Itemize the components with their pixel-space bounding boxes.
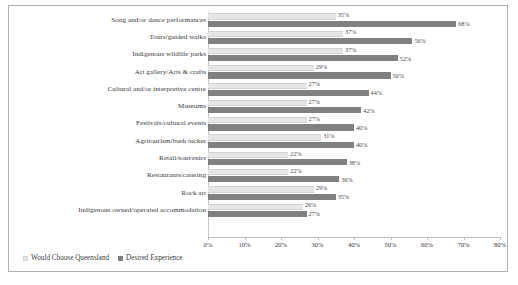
- bar-value-label: 52%: [400, 56, 411, 62]
- bar-value-label: 37%: [345, 29, 356, 35]
- row-bars: 26%27%: [208, 202, 507, 219]
- bar-value-label: 36%: [341, 177, 352, 183]
- row-bars: 37%52%: [208, 47, 507, 64]
- row-bars: 29%35%: [208, 185, 507, 202]
- axis-tick: [427, 237, 428, 240]
- plot-area: Song and/or dance performances35%68%Tour…: [9, 6, 507, 271]
- category-label: Art gallery/Arts & crafts: [135, 69, 206, 76]
- legend-label: Would Choose Queensland: [31, 255, 109, 262]
- legend-item[interactable]: Would Choose Queensland: [23, 255, 109, 262]
- bar-value-label: 44%: [371, 90, 382, 96]
- bar-dark: [208, 38, 412, 44]
- category-label: Indigenous wildlife parks: [132, 52, 206, 59]
- bar-dark: [208, 107, 361, 113]
- bar-light: [208, 13, 336, 19]
- axis-tick: [281, 237, 282, 240]
- bar-row: Restaurants/catering22%36%: [9, 168, 507, 185]
- bar-value-label: 29%: [316, 64, 327, 70]
- bar-row: Rock art29%35%: [9, 185, 507, 202]
- bar-light: [208, 152, 288, 158]
- bar-row: Song and/or dance performances35%68%: [9, 12, 507, 29]
- bar-dark: [208, 21, 456, 27]
- bar-row: Festivals/cultural events27%40%: [9, 116, 507, 133]
- bar-value-label: 38%: [349, 160, 360, 166]
- axis-tick-label: 0%: [204, 242, 213, 249]
- row-bars: 37%56%: [208, 29, 507, 46]
- axis-tick: [245, 237, 246, 240]
- bar-row: Indigenous wildlife parks37%52%: [9, 47, 507, 64]
- bar-light: [208, 186, 314, 192]
- bar-dark: [208, 124, 354, 130]
- legend-swatch-icon: [118, 256, 123, 261]
- bar-light: [208, 134, 321, 140]
- category-label: Indigenous owned/operated accommodation: [78, 207, 206, 214]
- bar-row: Retail/souvenirs22%38%: [9, 150, 507, 167]
- bar-value-label: 35%: [338, 12, 349, 18]
- bar-light: [208, 117, 307, 123]
- bar-row: Tours/guided walks37%56%: [9, 29, 507, 46]
- row-bars: 22%36%: [208, 168, 507, 185]
- row-bars: 31%40%: [208, 133, 507, 150]
- bar-value-label: 40%: [356, 125, 367, 131]
- axis-tick-label: 40%: [348, 242, 360, 249]
- axis-tick-label: 80%: [494, 242, 506, 249]
- legend-label: Desired Experience: [126, 255, 182, 262]
- category-label: Museums: [178, 104, 206, 111]
- bar-row: Indigenous owned/operated accommodation2…: [9, 202, 507, 219]
- bar-dark: [208, 72, 391, 78]
- bar-value-label: 27%: [309, 81, 320, 87]
- bar-dark: [208, 176, 339, 182]
- row-bars: 27%42%: [208, 98, 507, 115]
- bar-row: Art gallery/Arts & crafts29%50%: [9, 64, 507, 81]
- axis-tick-label: 60%: [421, 242, 433, 249]
- axis-tick: [318, 237, 319, 240]
- row-bars: 27%40%: [208, 116, 507, 133]
- bar-dark: [208, 90, 369, 96]
- bar-light: [208, 169, 288, 175]
- bar-value-label: 40%: [356, 142, 367, 148]
- axis-tick-label: 70%: [457, 242, 469, 249]
- bar-dark: [208, 142, 354, 148]
- axis-tick-label: 30%: [311, 242, 323, 249]
- bar-value-label: 35%: [338, 194, 349, 200]
- bar-row: Museums27%42%: [9, 98, 507, 115]
- bar-value-label: 31%: [323, 133, 334, 139]
- bar-row: Cultural and/or interpretive centre27%44…: [9, 81, 507, 98]
- category-label: Song and/or dance performances: [111, 17, 206, 24]
- axis-tick: [391, 237, 392, 240]
- bar-dark: [208, 211, 307, 217]
- bar-rows: Song and/or dance performances35%68%Tour…: [9, 12, 507, 237]
- bar-light: [208, 204, 303, 210]
- bar-value-label: 27%: [309, 99, 320, 105]
- bar-light: [208, 100, 307, 106]
- row-bars: 29%50%: [208, 64, 507, 81]
- legend-item[interactable]: Desired Experience: [118, 255, 182, 262]
- category-label: Agritourism/bush tucker: [135, 138, 206, 145]
- bar-value-label: 27%: [309, 116, 320, 122]
- axis-tick-label: 10%: [238, 242, 250, 249]
- chart-container: Song and/or dance performances35%68%Tour…: [8, 5, 508, 272]
- axis-tick: [354, 237, 355, 240]
- row-bars: 35%68%: [208, 12, 507, 29]
- bar-value-label: 27%: [309, 211, 320, 217]
- bar-dark: [208, 55, 398, 61]
- bar-value-label: 68%: [458, 21, 469, 27]
- row-bars: 22%38%: [208, 150, 507, 167]
- category-label: Tours/guided walks: [149, 34, 206, 41]
- bar-light: [208, 31, 343, 37]
- bar-row: Agritourism/bush tucker31%40%: [9, 133, 507, 150]
- bar-light: [208, 83, 307, 89]
- category-label: Retail/souvenirs: [159, 155, 206, 162]
- bar-value-label: 26%: [305, 202, 316, 208]
- bar-value-label: 50%: [393, 73, 404, 79]
- bar-dark: [208, 159, 347, 165]
- chart-legend: Would Choose QueenslandDesired Experienc…: [23, 255, 183, 262]
- bar-light: [208, 48, 343, 54]
- category-label: Festivals/cultural events: [136, 121, 206, 128]
- axis-tick-label: 20%: [275, 242, 287, 249]
- bar-dark: [208, 194, 336, 200]
- axis-tick: [208, 237, 209, 240]
- bar-value-label: 22%: [290, 168, 301, 174]
- axis-tick: [464, 237, 465, 240]
- bar-value-label: 42%: [363, 108, 374, 114]
